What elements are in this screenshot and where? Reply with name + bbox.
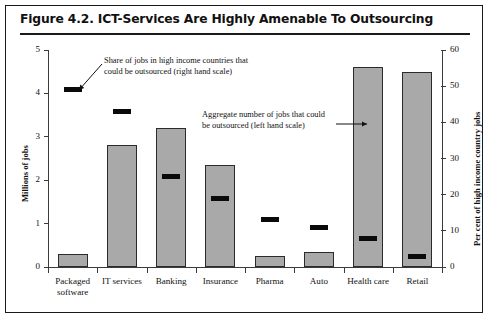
annotation-arrow-left-scale (6, 6, 491, 321)
figure-frame: Figure 4.2. ICT-Services Are Highly Amen… (5, 5, 483, 313)
chart-plot-area: 0123450102030405060Millions of jobsPer c… (6, 6, 482, 312)
